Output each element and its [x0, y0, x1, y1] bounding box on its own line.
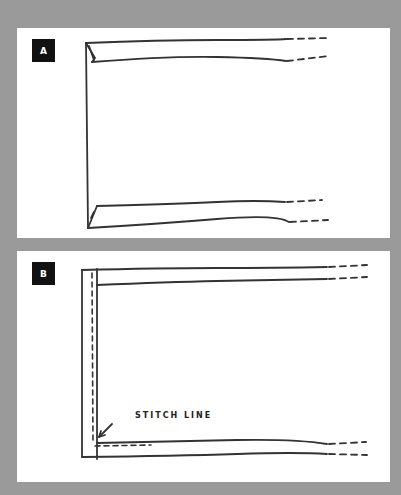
panel-b: B STITCH LINE — [17, 251, 390, 482]
panel-b-drawing — [17, 251, 390, 482]
stitch-line-label: STITCH LINE — [135, 411, 212, 420]
panel-a: A — [17, 28, 390, 238]
panel-a-drawing — [17, 28, 390, 238]
